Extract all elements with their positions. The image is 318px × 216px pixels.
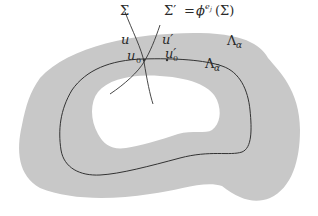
svg-text:Σ′: Σ′	[164, 3, 176, 18]
svg-text:0: 0	[136, 56, 141, 65]
label-lambda-alpha: Λ α	[226, 33, 242, 50]
svg-text:=: =	[184, 3, 195, 18]
svg-text:ᾱ: ᾱ	[214, 63, 220, 73]
label-sigma-prime-equation: Σ′ = ϕ e j (Σ)	[164, 2, 234, 18]
diagram-canvas: Σ Σ′ = ϕ e j (Σ) u u′ u 0 u′ 0 Λ α Λ ᾱ	[0, 0, 318, 216]
label-u0-prime: u′ 0	[165, 46, 178, 63]
svg-text:α: α	[236, 40, 242, 50]
label-sigma: Σ	[120, 3, 129, 18]
svg-text:0: 0	[173, 54, 178, 63]
label-u: u	[121, 32, 129, 47]
label-u-prime: u′	[162, 32, 173, 47]
svg-text:ϕ: ϕ	[196, 3, 205, 18]
svg-text:(Σ): (Σ)	[215, 3, 234, 18]
point-u0	[143, 59, 145, 61]
svg-text:u: u	[127, 48, 135, 63]
